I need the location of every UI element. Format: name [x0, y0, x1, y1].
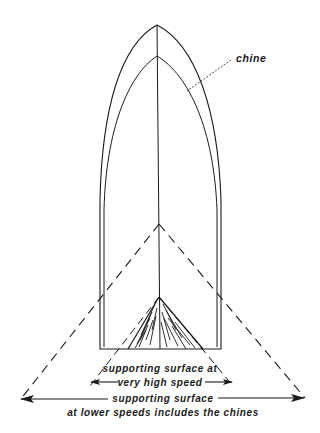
hull-outline-chine: [104, 56, 217, 347]
hull-outline-outer: [100, 25, 221, 349]
hull-diagram: chine supporting surface at very high sp…: [0, 0, 320, 433]
chine-label: chine: [236, 52, 266, 64]
high-speed-label-line2: very high speed: [117, 377, 202, 388]
high-speed-label-line1: supporting surface at: [103, 363, 218, 374]
low-speed-label-line2: at lower speeds includes the chines: [67, 407, 259, 418]
low-speed-label-line1: supporting surface: [112, 393, 213, 404]
